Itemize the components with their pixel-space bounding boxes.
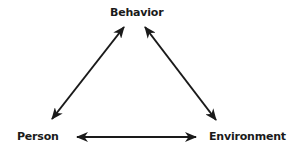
node-label-environment: Environment [209,130,286,143]
triad-diagram: Behavior Person Environment [0,0,297,156]
arrow-person-behavior [52,27,124,119]
node-label-person: Person [17,130,59,143]
arrow-behavior-environment [145,27,216,120]
node-label-behavior: Behavior [110,6,163,19]
